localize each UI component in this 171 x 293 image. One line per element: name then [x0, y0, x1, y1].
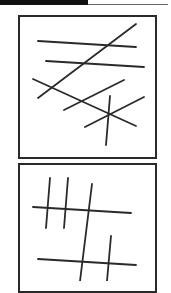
line-segment: [46, 178, 50, 228]
line-segment: [38, 41, 136, 47]
line-segment: [64, 178, 68, 228]
line-segment: [106, 96, 110, 145]
line-segment: [107, 236, 111, 281]
line-segment: [64, 80, 124, 110]
line-segment: [38, 259, 136, 265]
line-segment: [80, 184, 92, 281]
line-segment: [85, 97, 144, 127]
panel-1-lines: [33, 24, 144, 145]
line-segment: [33, 79, 136, 126]
panel-2-lines: [33, 178, 136, 281]
line-segment: [46, 61, 144, 67]
